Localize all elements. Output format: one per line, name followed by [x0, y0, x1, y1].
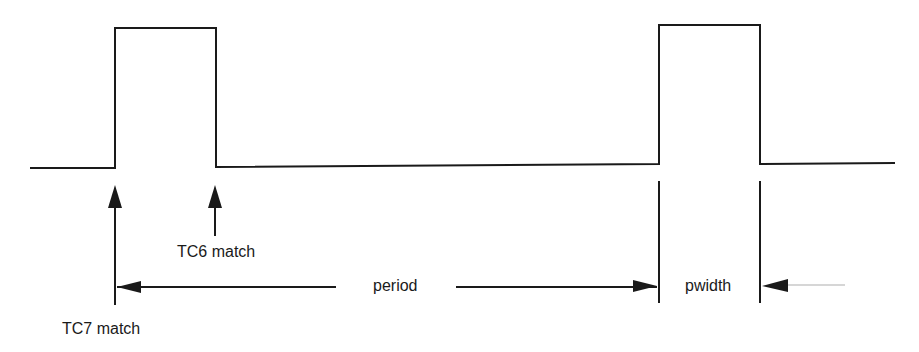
pwidth-label: pwidth — [685, 278, 731, 294]
tc6-arrowhead-icon — [208, 185, 222, 208]
tc7-arrowhead-icon — [108, 185, 122, 208]
period-left-arrowhead-icon — [117, 281, 141, 293]
pwidth-arrowhead-icon — [762, 279, 788, 292]
timing-diagram — [0, 0, 919, 352]
pwm-waveform — [30, 25, 895, 168]
period-label: period — [373, 278, 417, 294]
tc6-match-label: TC6 match — [177, 244, 255, 260]
period-right-arrowhead-icon — [633, 280, 657, 292]
tc7-match-label: TC7 match — [62, 321, 140, 337]
